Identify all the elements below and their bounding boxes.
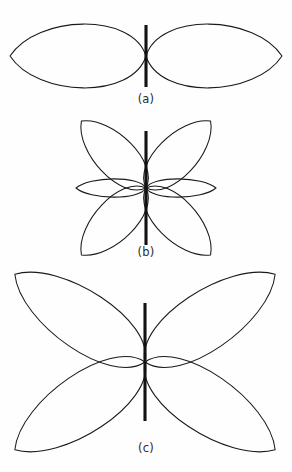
panel-a-caption: (a)	[0, 92, 292, 106]
lobe-c-3	[144, 357, 275, 452]
radiation-pattern-canvas	[0, 0, 292, 472]
lobe-b-4	[146, 179, 216, 197]
panel-b-pattern	[76, 121, 216, 255]
lobe-a-0	[146, 24, 282, 88]
panel-a-pattern	[10, 24, 282, 88]
lobe-a-1	[10, 24, 146, 88]
lobe-c-0	[144, 272, 275, 367]
radiation-pattern-figure: (a) (b) (c)	[0, 0, 292, 472]
lobe-b-1	[81, 121, 148, 190]
panel-b-caption: (b)	[0, 245, 292, 259]
lobe-c-2	[15, 357, 146, 452]
lobe-c-1	[15, 272, 146, 367]
lobe-b-5	[76, 179, 146, 197]
panel-c-caption: (c)	[0, 441, 292, 455]
panel-c-pattern	[15, 272, 275, 452]
lobe-b-0	[144, 121, 211, 190]
